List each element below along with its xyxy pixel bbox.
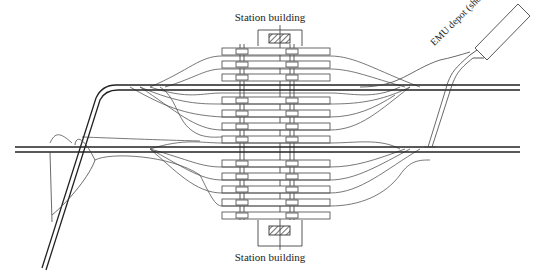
- stair-icon: [236, 49, 248, 54]
- stair-icon: [286, 75, 298, 80]
- stair-icon: [236, 62, 248, 67]
- station-track-diagram: [0, 0, 540, 278]
- stair-icon: [286, 174, 298, 179]
- stair-icon: [236, 200, 248, 205]
- stair-icon: [236, 111, 248, 116]
- stair-icon: [236, 187, 248, 192]
- station-building-bottom-label: Station building: [0, 251, 540, 263]
- stair-icon: [286, 213, 298, 218]
- stair-icon: [236, 75, 248, 80]
- stair-icon: [286, 124, 298, 129]
- stair-icon: [236, 137, 248, 142]
- stair-icon: [286, 187, 298, 192]
- stair-icon: [286, 111, 298, 116]
- stair-icon: [236, 98, 248, 103]
- lower-main-line: [15, 147, 520, 152]
- stair-icon: [236, 174, 248, 179]
- stair-icon: [286, 200, 298, 205]
- stair-icon: [286, 98, 298, 103]
- stair-icon: [286, 62, 298, 67]
- stair-icon: [236, 124, 248, 129]
- stair-icon: [286, 137, 298, 142]
- stair-icon: [236, 161, 248, 166]
- stair-icon: [286, 49, 298, 54]
- stair-icon: [286, 161, 298, 166]
- stair-icon: [236, 213, 248, 218]
